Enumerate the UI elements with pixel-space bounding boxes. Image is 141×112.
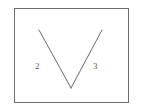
- angle-drawing: [0, 0, 141, 112]
- angle-label-3: 3: [93, 62, 98, 71]
- right-ray: [71, 30, 102, 88]
- figure-canvas: 2 3: [0, 0, 141, 112]
- left-ray: [39, 30, 71, 88]
- angle-label-2: 2: [35, 62, 40, 71]
